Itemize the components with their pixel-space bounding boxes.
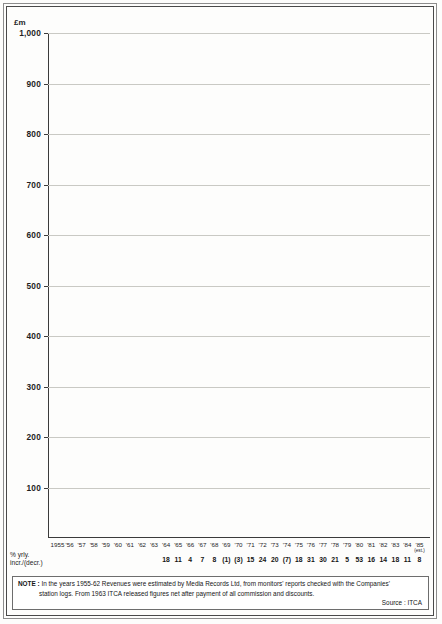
x-tick-label-80: '80 — [355, 541, 363, 548]
x-tick-label-69: '69 — [222, 541, 230, 548]
x-tick-label-63: '63 — [150, 541, 158, 548]
x-tick-label-57: '57 — [78, 541, 86, 548]
percent-change-value: 15 — [247, 556, 255, 563]
percent-change-value: 18 — [162, 556, 170, 563]
x-tick-label-77: '77 — [319, 541, 327, 548]
x-tick-label-78: '78 — [331, 541, 339, 548]
percent-change-value: 8 — [418, 556, 422, 563]
y-axis-label-1000: 1,000 — [0, 28, 41, 38]
percent-change-value: 21 — [331, 556, 339, 563]
percent-change-caption: % yrly. incr./(decr.) — [10, 551, 43, 566]
percent-change-value: 30 — [319, 556, 327, 563]
x-tick-label-83: '83 — [391, 541, 399, 548]
y-axis-label-600: 600 — [0, 230, 41, 240]
note-line-1: NOTE : In the years 1955-62 Revenues wer… — [18, 580, 390, 587]
note-line-1-text: In the years 1955-62 Revenues were estim… — [41, 580, 389, 587]
y-axis-label-800: 800 — [0, 129, 41, 139]
percent-change-value: (7) — [283, 556, 291, 563]
x-tick-label-75: '75 — [295, 541, 303, 548]
y-axis-unit-label: £m — [14, 18, 26, 27]
percent-change-value: (3) — [234, 556, 242, 563]
x-tick-label-72: '72 — [259, 541, 267, 548]
x-tick-label-64: '64 — [162, 541, 170, 548]
note-source: Source : ITCA — [382, 599, 422, 606]
percent-caption-line1: % yrly. — [10, 551, 29, 558]
percent-change-value: 16 — [367, 556, 375, 563]
x-tick-label-76: '76 — [307, 541, 315, 548]
y-axis-label-200: 200 — [0, 432, 41, 442]
x-tick-label-61: '61 — [126, 541, 134, 548]
x-tick-label-59: '59 — [102, 541, 110, 548]
x-tick-label-56: '56 — [66, 541, 74, 548]
x-tick-label-81: '81 — [367, 541, 375, 548]
plot-area: £13,024£31,986£48,671£58,359£76,960£93,2… — [48, 33, 430, 538]
x-tick-label-79: '79 — [343, 541, 351, 548]
note-line-2: station logs. From 1963 ITCA released fi… — [39, 590, 314, 597]
percent-change-value: 14 — [380, 556, 388, 563]
percent-change-value: 8 — [213, 556, 217, 563]
percent-change-value: 7 — [200, 556, 204, 563]
percent-change-value: 11 — [404, 556, 411, 563]
percent-change-value: 20 — [271, 556, 279, 563]
percent-change-value: (1) — [222, 556, 230, 563]
y-axis-label-700: 700 — [0, 180, 41, 190]
percent-change-value: 11 — [175, 556, 182, 563]
y-axis-label-400: 400 — [0, 331, 41, 341]
x-tick-estimate-annotation: (est.) — [414, 548, 424, 553]
percent-change-value: 18 — [295, 556, 303, 563]
percent-change-value: 31 — [307, 556, 315, 563]
y-axis-label-900: 900 — [0, 79, 41, 89]
x-tick-label-66: '66 — [186, 541, 194, 548]
x-tick-label-60: '60 — [114, 541, 122, 548]
x-tick-label-58: '58 — [90, 541, 98, 548]
x-tick-label-67: '67 — [198, 541, 206, 548]
x-tick-label-73: '73 — [271, 541, 279, 548]
percent-change-value: 18 — [392, 556, 400, 563]
x-tick-label-65: '65 — [174, 541, 182, 548]
percent-caption-line2: incr./(decr.) — [10, 559, 43, 566]
x-tick-label-62: '62 — [138, 541, 146, 548]
percent-change-value: 24 — [259, 556, 267, 563]
note-label: NOTE : — [18, 580, 40, 587]
percent-change-value: 5 — [345, 556, 349, 563]
y-axis-label-100: 100 — [0, 483, 41, 493]
x-tick-label-71: '71 — [247, 541, 255, 548]
x-tick-label-74: '74 — [283, 541, 291, 548]
x-tick-label-1955: 1955 — [51, 541, 65, 548]
y-axis-label-300: 300 — [0, 382, 41, 392]
x-tick-label-85: '85 — [415, 541, 423, 548]
x-tick-label-68: '68 — [210, 541, 218, 548]
x-tick-label-70: '70 — [234, 541, 242, 548]
percent-change-value: 4 — [188, 556, 192, 563]
percent-change-value: 53 — [355, 556, 363, 563]
note-box: NOTE : In the years 1955-62 Revenues wer… — [12, 576, 429, 610]
chart-page: £m £13,024£31,986£48,671£58,359£76,960£9… — [0, 0, 442, 624]
x-tick-label-84: '84 — [403, 541, 411, 548]
revenue-curve — [48, 33, 430, 538]
y-axis-label-500: 500 — [0, 281, 41, 291]
x-axis-tick-labels: 1955'56'57'58'59'60'61'62'63'64'65'66'67… — [48, 541, 430, 552]
x-tick-label-82: '82 — [379, 541, 387, 548]
percent-change-row: 1811478(1)(3)152420(7)183130215531614181… — [48, 556, 430, 567]
